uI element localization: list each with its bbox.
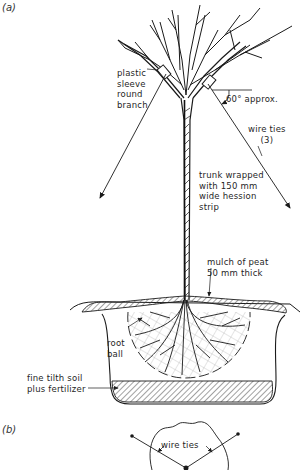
label-wire-ties: wire ties (3)	[248, 124, 286, 145]
root-ball	[128, 300, 250, 378]
label-root-ball: root ball	[107, 338, 125, 359]
label-mulch: mulch of peat 50 mm thick	[207, 257, 268, 278]
fertilizer-layer	[112, 381, 273, 402]
panel-a-label: (a)	[2, 2, 16, 13]
label-soil: fine tilth soil plus fertilizer	[27, 373, 86, 394]
trunk	[181, 98, 193, 300]
label-trunk-wrap: trunk wrapped with 150 mm wide hession s…	[199, 170, 264, 212]
trunk-plan-dot	[184, 466, 189, 470]
panel-b-label: (b)	[2, 424, 16, 435]
label-plastic-sleeve: plastic sleeve round branch	[117, 68, 148, 110]
label-angle: 60° approx.	[226, 94, 278, 105]
tree-planting-diagram	[0, 0, 300, 470]
label-plan-wire-ties: wire ties	[161, 440, 199, 451]
